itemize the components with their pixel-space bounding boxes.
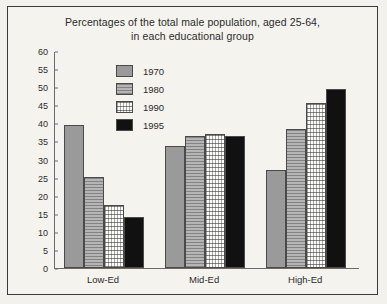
bar-low-ed-1970 [64,125,84,268]
y-axis-tick-label: 55 [22,65,48,75]
y-axis-tick-mark [55,269,58,270]
y-axis-tick-label: 10 [22,228,48,238]
bar-high-ed-1990 [306,103,326,268]
chart-figure: Percentages of the total male population… [7,6,378,295]
y-axis-tick-label: 45 [22,101,48,111]
y-axis-tick-label: 30 [22,156,48,166]
bar-high-ed-1980 [286,129,306,268]
x-axis-label-high-ed: High-Ed [288,274,322,285]
bar-group [266,52,346,268]
y-axis-tick-label: 40 [22,119,48,129]
plot-area: 605550454035302520151050 Low-EdMid-EdHig… [54,52,359,269]
bar-low-ed-1995 [124,217,144,268]
bar-mid-ed-1995 [225,136,245,268]
bar-high-ed-1995 [326,89,346,268]
x-axis-line [54,268,359,269]
bar-mid-ed-1990 [205,134,225,268]
bar-group [64,52,144,268]
y-axis-tick-label: 20 [22,192,48,202]
bar-high-ed-1970 [266,170,286,268]
chart-title-line-1: Percentages of the total male population… [8,15,377,29]
x-axis-label-low-ed: Low-Ed [87,274,119,285]
y-axis-tick-label: 60 [22,47,48,57]
bar-low-ed-1980 [84,177,104,269]
bar-low-ed-1990 [104,205,124,268]
bar-series-container [55,52,359,268]
y-axis-tick-label: 15 [22,210,48,220]
y-axis-tick-label: 5 [22,246,48,256]
chart-title: Percentages of the total male population… [8,15,377,43]
bar-mid-ed-1980 [185,136,205,268]
bar-group [165,52,245,268]
y-axis-tick-label: 0 [22,264,48,274]
y-axis-tick-label: 25 [22,174,48,184]
chart-title-line-2: in each educational group [8,29,377,43]
y-axis-tick-label: 35 [22,137,48,147]
y-axis-tick-label: 50 [22,83,48,93]
bar-mid-ed-1970 [165,146,185,268]
x-axis-label-mid-ed: Mid-Ed [189,274,219,285]
